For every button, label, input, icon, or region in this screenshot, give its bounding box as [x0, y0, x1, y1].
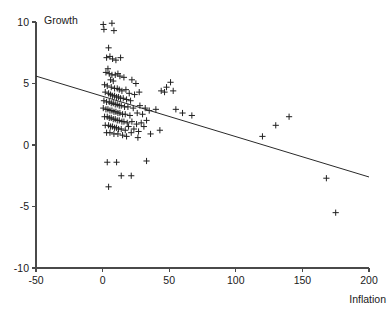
data-point-marker: [286, 114, 292, 120]
data-point-marker: [157, 127, 163, 133]
y-axis-tick-label: -5: [20, 200, 29, 212]
data-point-marker: [108, 84, 114, 90]
data-point-marker: [273, 122, 279, 128]
data-point-marker: [118, 173, 124, 179]
ticks-group: [32, 22, 369, 272]
axes-group: [36, 22, 369, 268]
data-point-marker: [139, 111, 145, 117]
data-point-marker: [107, 130, 113, 136]
data-point-marker: [103, 55, 109, 61]
data-point-marker: [102, 89, 108, 95]
data-point-marker: [158, 88, 164, 94]
regression-trendline: [36, 76, 369, 177]
data-point-marker: [129, 77, 135, 83]
data-point-marker: [143, 158, 149, 164]
y-axis-tick-label: 10: [17, 16, 29, 28]
x-axis-tick-label: 100: [227, 274, 245, 286]
data-point-marker: [109, 20, 115, 26]
data-point-marker: [173, 106, 179, 112]
y-axis-title: Growth: [44, 14, 78, 26]
data-point-marker: [128, 173, 134, 179]
x-axis-tick-label: 200: [360, 274, 378, 286]
data-point-marker: [123, 87, 129, 93]
data-point-marker: [135, 135, 141, 141]
x-axis-tick-label: -50: [28, 274, 43, 286]
data-point-marker: [170, 88, 176, 94]
data-point-marker: [105, 184, 111, 190]
data-point-marker: [126, 90, 132, 96]
data-point-marker: [111, 28, 117, 34]
data-point-marker: [189, 112, 195, 118]
data-point-marker: [115, 131, 121, 137]
data-point-marker: [133, 80, 139, 86]
y-axis-tick-label: 0: [23, 139, 29, 151]
data-point-marker: [123, 133, 129, 139]
data-point-marker: [179, 110, 185, 116]
trendline-group: [36, 76, 369, 177]
x-axis-tick-label: 50: [163, 274, 175, 286]
data-point-marker: [143, 117, 149, 123]
data-point-marker: [333, 210, 339, 216]
data-point-marker: [101, 26, 107, 32]
data-point-marker: [167, 79, 173, 85]
data-point-marker: [134, 110, 140, 116]
x-axis-title: Inflation: [349, 293, 386, 305]
data-point-marker: [100, 21, 106, 27]
data-point-marker: [121, 74, 127, 80]
y-axis-tick-label: -10: [14, 262, 29, 274]
tick-labels-group: -10-50510-50050100150200: [14, 16, 378, 286]
y-axis-tick-label: 5: [23, 77, 29, 89]
data-point-marker: [105, 45, 111, 51]
data-point-marker: [104, 159, 110, 165]
scatter-plot-figure: -10-50510-50050100150200 Growth Inflatio…: [0, 0, 390, 312]
data-points-group: [100, 20, 339, 216]
data-point-marker: [259, 133, 265, 139]
x-axis-tick-label: 0: [100, 274, 106, 286]
data-point-marker: [127, 112, 133, 118]
data-point-marker: [123, 96, 129, 102]
plot-canvas: -10-50510-50050100150200 Growth Inflatio…: [0, 0, 390, 312]
data-point-marker: [127, 98, 133, 104]
data-point-marker: [323, 175, 329, 181]
x-axis-tick-label: 150: [294, 274, 312, 286]
data-point-marker: [124, 120, 130, 126]
data-point-marker: [125, 123, 131, 129]
data-point-marker: [147, 131, 153, 137]
data-point-marker: [113, 159, 119, 165]
